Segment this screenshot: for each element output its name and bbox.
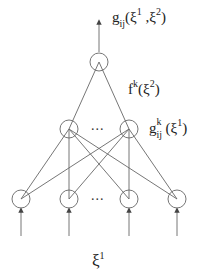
network-diagram (0, 0, 198, 280)
output-label: gij(ξ1 ,ξ2) (112, 10, 166, 25)
input-ellipsis: ... (91, 188, 105, 204)
input-label: ξ1 (92, 252, 105, 269)
hidden-function-label: fk(ξ2) (128, 82, 160, 97)
hidden-ellipsis: ... (91, 118, 105, 134)
edge (21, 129, 69, 199)
edge (21, 129, 129, 199)
edge (129, 129, 177, 199)
hidden-node-label: gkij(ξ1) (149, 121, 187, 136)
